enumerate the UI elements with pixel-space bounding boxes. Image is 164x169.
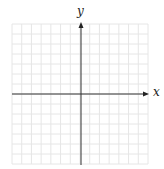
x-axis-label: x xyxy=(153,86,160,98)
y-axis-arrow-icon xyxy=(79,22,84,28)
coordinate-plane xyxy=(0,0,164,169)
y-axis-label: y xyxy=(77,5,84,17)
